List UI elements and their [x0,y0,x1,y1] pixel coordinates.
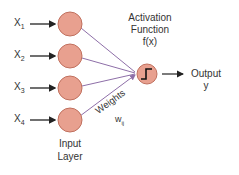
input-arrows [30,24,55,120]
input-nodes [58,12,82,132]
activation-node [137,64,157,84]
input-node-2 [58,44,82,68]
input-label-4: X4 [14,113,25,128]
activation-caption: Activation Function f(x) [122,12,178,48]
input-node-4 [58,108,82,132]
weights-symbol: wij [115,114,124,129]
activation-line1: Activation [122,12,178,24]
activation-line3: f(x) [122,36,178,48]
input-layer-line1: Input [52,137,88,150]
activation-line2: Function [122,24,178,36]
input-layer-line2: Layer [52,150,88,163]
input-label-2: X2 [14,49,25,64]
output-caption: Output y [186,68,226,92]
input-label-1: X1 [14,17,25,32]
input-node-3 [58,76,82,100]
output-line2: y [186,80,226,92]
input-label-3: X3 [14,81,25,96]
input-node-1 [58,12,82,36]
output-line1: Output [186,68,226,80]
input-layer-caption: Input Layer [52,137,88,163]
